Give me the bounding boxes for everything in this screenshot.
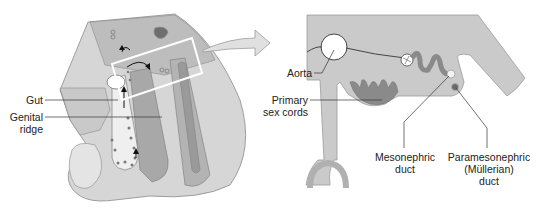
- embryo-illustration: [60, 14, 246, 201]
- label-aorta: Aorta: [260, 67, 312, 79]
- label-paramesonephric-duct-3: duct: [444, 175, 534, 187]
- label-mesonephric-duct-1: Mesonephric: [372, 151, 438, 163]
- label-genital-ridge-1: Genital: [0, 111, 43, 123]
- label-mesonephric-duct-2: duct: [372, 163, 438, 175]
- label-paramesonephric-duct-2: (Müllerian): [444, 163, 534, 175]
- label-primary-sex-cords-2: sex cords: [250, 106, 308, 118]
- label-genital-ridge-2: ridge: [0, 123, 43, 135]
- label-primary-sex-cords-1: Primary: [250, 94, 308, 106]
- label-paramesonephric-duct-1: Paramesonephric: [444, 151, 534, 163]
- label-gut: Gut: [10, 94, 43, 106]
